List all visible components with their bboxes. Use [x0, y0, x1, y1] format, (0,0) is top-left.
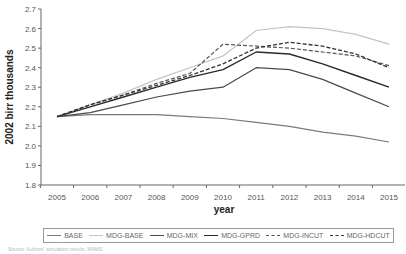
legend-swatch-icon [47, 235, 61, 236]
legend-label: MDG-BASE [106, 232, 143, 239]
y-axis-title: 2002 birr thousands [4, 49, 15, 144]
y-tick-label: 2.7 [25, 5, 37, 14]
legend-item-mdg-hdcut: MDG-HDCUT [330, 232, 390, 239]
x-tick-label: 2007 [115, 193, 133, 202]
x-tick-label: 2011 [248, 193, 266, 202]
line-chart: 1.81.92.02.12.22.32.42.52.62.7 200520062… [0, 0, 406, 254]
legend-item-mdg-incut: MDG-INCUT [266, 232, 323, 239]
x-tick-label: 2010 [214, 193, 232, 202]
legend-label: MDG-HDCUT [347, 232, 390, 239]
legend-swatch-icon [330, 235, 344, 236]
series-line-mdg-mix [57, 68, 389, 117]
y-tick-label: 2.5 [25, 44, 37, 53]
legend-item-mdg-base: MDG-BASE [89, 232, 143, 239]
legend-item-base: BASE [47, 232, 83, 239]
x-axis: 2005200620072008200920102011201220132014… [40, 185, 405, 202]
legend-item-mdg-gprd: MDG-GPRD [204, 232, 260, 239]
x-tick-label: 2009 [181, 193, 199, 202]
legend-swatch-icon [266, 235, 280, 236]
series-line-mdg-incut [57, 44, 389, 116]
legend-label: MDG-GPRD [221, 232, 260, 239]
y-tick-label: 1.8 [25, 181, 37, 190]
legend-swatch-icon [150, 235, 164, 236]
plot-lines [57, 27, 389, 142]
x-tick-label: 2008 [148, 193, 166, 202]
x-tick-label: 2015 [380, 193, 398, 202]
x-axis-title: year [214, 204, 235, 215]
y-tick-label: 2.3 [25, 83, 37, 92]
y-tick-label: 2.4 [25, 64, 37, 73]
y-tick-label: 2.6 [25, 25, 37, 34]
y-tick-label: 1.9 [25, 161, 37, 170]
legend-item-mdg-mix: MDG-MIX [150, 232, 198, 239]
series-line-mdg-gprd [57, 52, 389, 117]
x-tick-label: 2014 [347, 193, 365, 202]
series-line-base [57, 115, 389, 142]
y-tick-label: 2.1 [25, 122, 37, 131]
legend-swatch-icon [89, 235, 103, 236]
x-tick-label: 2012 [281, 193, 299, 202]
legend-swatch-icon [204, 235, 218, 236]
x-tick-label: 2006 [81, 193, 99, 202]
legend-label: BASE [64, 232, 83, 239]
legend-label: MDG-INCUT [283, 232, 323, 239]
source-note: Source: Authors' simulation results, MAM… [8, 246, 102, 252]
legend-label: MDG-MIX [167, 232, 198, 239]
y-axis: 1.81.92.02.12.22.32.42.52.62.7 [25, 5, 41, 190]
legend: BASEMDG-BASEMDG-MIXMDG-GPRDMDG-INCUTMDG-… [43, 228, 394, 243]
x-tick-label: 2005 [48, 193, 66, 202]
series-line-mdg-base [57, 27, 389, 117]
y-tick-label: 2.2 [25, 103, 37, 112]
x-tick-label: 2013 [314, 193, 332, 202]
y-tick-label: 2.0 [25, 142, 37, 151]
